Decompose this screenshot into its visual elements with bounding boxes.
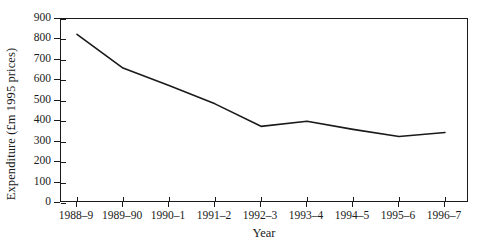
line-series-expenditure (61, 19, 469, 203)
x-axis-tick-inner (353, 197, 354, 201)
y-axis-tick-label: 500 (14, 94, 51, 106)
y-axis-tick-label: 0 (14, 196, 51, 208)
chart-screenshot: Expenditure (£m 1995 prices) 01002003004… (0, 0, 488, 248)
y-axis-tick-label: 900 (14, 12, 51, 24)
x-axis-tick-inner (307, 197, 308, 201)
y-axis-tick-label: 200 (14, 155, 51, 167)
x-axis-tick (76, 202, 77, 207)
y-axis-tick-label: 100 (14, 176, 51, 188)
x-axis-tick-label: 1996–7 (409, 209, 479, 222)
y-axis-tick-inner (61, 60, 66, 61)
x-axis-tick (398, 202, 399, 207)
y-axis-tick-inner (61, 142, 66, 143)
x-axis-title: Year (60, 226, 468, 241)
y-axis-tick-inner (61, 121, 66, 122)
y-axis-tick-label: 700 (14, 53, 51, 65)
x-axis-tick-inner (261, 197, 262, 201)
y-axis-tick-inner (61, 183, 66, 184)
y-axis-tick-label: 400 (14, 114, 51, 126)
y-axis-tick-inner (61, 39, 66, 40)
x-axis-tick (306, 202, 307, 207)
x-axis-tick-inner (169, 197, 170, 201)
x-axis-tick (122, 202, 123, 207)
y-axis-tick-inner (61, 203, 66, 204)
y-axis-tick-inner (61, 80, 66, 81)
x-axis-tick (352, 202, 353, 207)
y-axis-tick-inner (61, 101, 66, 102)
y-axis-tick-label: 600 (14, 73, 51, 85)
x-axis-tick-inner (215, 197, 216, 201)
x-axis-tick (214, 202, 215, 207)
y-axis-tick-inner (61, 162, 66, 163)
x-axis-tick-inner (77, 197, 78, 201)
series-polyline (77, 34, 445, 136)
x-axis-tick (444, 202, 445, 207)
x-axis-tick-inner (399, 197, 400, 201)
y-axis-tick (54, 202, 60, 203)
x-axis-tick-inner (445, 197, 446, 201)
plot-area (60, 18, 468, 202)
x-axis-tick (168, 202, 169, 207)
y-axis-tick-label: 300 (14, 135, 51, 147)
x-axis-tick (260, 202, 261, 207)
y-axis-tick-inner (61, 19, 66, 20)
x-axis-tick-inner (123, 197, 124, 201)
y-axis-tick-label: 800 (14, 32, 51, 44)
